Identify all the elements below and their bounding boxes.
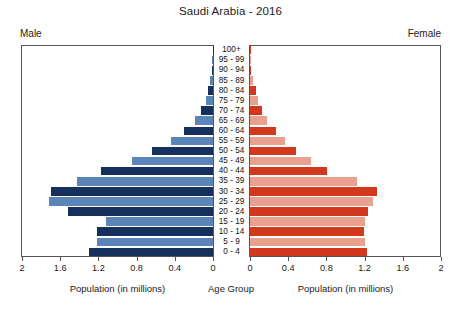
pyramid-row [21, 248, 213, 257]
age-group-label: 75 - 79 [214, 96, 249, 106]
chart-title: Saudi Arabia - 2016 [0, 5, 461, 17]
pyramid-row [21, 197, 213, 206]
male-side-label: Male [20, 28, 42, 39]
axis-tick-label: 0.4 [282, 263, 295, 273]
axis-tick [288, 257, 289, 261]
age-group-label: 85 - 89 [214, 76, 249, 86]
pyramid-bar [250, 167, 327, 176]
pyramid-bar [250, 217, 365, 226]
pyramid-bar [250, 187, 377, 196]
axis-tick [250, 257, 251, 261]
age-group-label: 50 - 54 [214, 146, 249, 156]
male-bars-group [21, 45, 213, 257]
axis-tick-label: 1.2 [358, 263, 371, 273]
pyramid-row [21, 66, 213, 75]
axis-tick [365, 257, 366, 261]
pyramid-bar [101, 167, 213, 176]
pyramid-bar [212, 56, 213, 65]
axis-tick-label: 0 [247, 263, 252, 273]
age-group-label: 60 - 64 [214, 126, 249, 136]
pyramid-row [21, 116, 213, 125]
pyramid-row [250, 147, 441, 156]
age-group-label: 55 - 59 [214, 136, 249, 146]
pyramid-row [250, 197, 441, 206]
pyramid-row [250, 46, 441, 55]
pyramid-bar [51, 187, 213, 196]
axis-tick [326, 257, 327, 261]
pyramid-row [250, 177, 441, 186]
pyramid-bar [210, 76, 213, 85]
age-group-label: 45 - 49 [214, 156, 249, 166]
pyramid-bar [97, 238, 214, 247]
pyramid-bar [152, 147, 213, 156]
pyramid-row [21, 227, 213, 236]
female-axis-title: Population (in millions) [298, 283, 394, 294]
age-group-label: 40 - 44 [214, 166, 249, 176]
population-pyramid-chart: Saudi Arabia - 2016 Male Female 100+95 -… [0, 0, 461, 314]
pyramid-row [21, 56, 213, 65]
pyramid-bar [97, 227, 214, 236]
pyramid-bar [250, 137, 285, 146]
pyramid-bar [171, 137, 213, 146]
age-group-label: 35 - 39 [214, 176, 249, 186]
pyramid-bar [250, 157, 311, 166]
pyramid-row [250, 238, 441, 247]
pyramid-bar [184, 127, 213, 136]
age-group-label: 20 - 24 [214, 207, 249, 217]
pyramid-row [250, 248, 441, 257]
pyramid-row [21, 46, 213, 55]
age-group-label: 0 - 4 [214, 247, 249, 257]
pyramid-row [250, 127, 441, 136]
pyramid-row [250, 86, 441, 95]
pyramid-row [21, 177, 213, 186]
pyramid-bar [206, 96, 213, 105]
axis-tick [60, 257, 61, 261]
age-group-label: 10 - 14 [214, 227, 249, 237]
pyramid-row [21, 157, 213, 166]
pyramid-bar [250, 238, 365, 247]
axis-tick [403, 257, 404, 261]
pyramid-row [21, 238, 213, 247]
age-group-labels: 100+95 - 9990 - 9485 - 8980 - 8475 - 797… [214, 45, 249, 257]
pyramid-bar [77, 177, 213, 186]
pyramid-row [21, 217, 213, 226]
age-group-label: 90 - 94 [214, 65, 249, 75]
pyramid-bar [250, 147, 296, 156]
female-side-label: Female [408, 28, 441, 39]
pyramid-bar [132, 157, 213, 166]
pyramid-bar [89, 248, 213, 257]
pyramid-bar [195, 116, 213, 125]
axis-tick [22, 257, 23, 261]
male-axis-title: Population (in millions) [70, 283, 166, 294]
axis-tick-label: 1.6 [396, 263, 409, 273]
age-group-label: 5 - 9 [214, 237, 249, 247]
pyramid-row [250, 137, 441, 146]
axis-tick-label: 2 [438, 263, 443, 273]
pyramid-row [250, 66, 441, 75]
axis-tick-label: 1.6 [54, 263, 67, 273]
pyramid-bar [250, 116, 267, 125]
pyramid-bar [250, 227, 364, 236]
pyramid-row [21, 76, 213, 85]
pyramid-row [250, 56, 441, 65]
pyramid-bar [250, 207, 368, 216]
pyramid-row [250, 167, 441, 176]
pyramid-row [250, 116, 441, 125]
age-group-label: 65 - 69 [214, 116, 249, 126]
pyramid-row [21, 96, 213, 105]
pyramid-row [21, 106, 213, 115]
axis-tick [175, 257, 176, 261]
pyramid-row [250, 207, 441, 216]
pyramid-bar [49, 197, 213, 206]
pyramid-row [250, 106, 441, 115]
axis-tick-label: 0.4 [168, 263, 181, 273]
pyramid-row [250, 96, 441, 105]
age-group-label: 80 - 84 [214, 86, 249, 96]
axis-tick-label: 0.8 [130, 263, 143, 273]
age-group-label: 70 - 74 [214, 106, 249, 116]
center-axis-title: Age Group [208, 283, 254, 294]
pyramid-bar [106, 217, 213, 226]
pyramid-bar [68, 207, 213, 216]
age-group-label: 15 - 19 [214, 217, 249, 227]
axis-tick-label: 0 [210, 263, 215, 273]
